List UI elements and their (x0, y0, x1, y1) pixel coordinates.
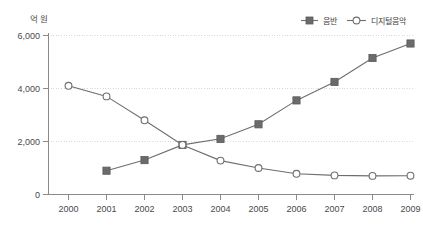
x-tick-label-2003: 2003 (172, 204, 192, 214)
data-point (65, 82, 72, 89)
x-tick-labels: 2000 2001 2002 2003 2004 2005 2006 2007 … (58, 204, 420, 214)
data-point (331, 78, 338, 85)
series-line-digital (69, 86, 411, 176)
x-tick-label-2000: 2000 (58, 204, 78, 214)
x-tick-label-2006: 2006 (286, 204, 306, 214)
legend-marker-filled-square (306, 17, 313, 24)
chart-canvas: 억 원 6,000 4,000 2,000 0 2000 2001 2002 2… (0, 0, 423, 239)
x-tick-label-2002: 2002 (134, 204, 154, 214)
data-point (407, 172, 414, 179)
x-tick-label-2007: 2007 (324, 204, 344, 214)
data-point (141, 157, 148, 164)
data-point (179, 142, 186, 149)
data-point (141, 117, 148, 124)
x-tick-label-2001: 2001 (96, 204, 116, 214)
data-point (293, 97, 300, 104)
data-point (103, 93, 110, 100)
data-point (331, 172, 338, 179)
gridlines (48, 36, 414, 142)
x-tick-marks (69, 195, 411, 200)
legend-item-album[interactable]: 음반 (301, 17, 338, 26)
data-point (293, 170, 300, 177)
series-digital (65, 82, 414, 179)
series-album (103, 40, 414, 174)
data-point (255, 121, 262, 128)
data-point (369, 54, 376, 61)
x-tick-label-2008: 2008 (362, 204, 382, 214)
series-line-album (107, 44, 411, 171)
y-axis-unit-label: 억 원 (30, 14, 48, 24)
data-point (407, 40, 414, 47)
x-tick-label-2009: 2009 (400, 204, 420, 214)
legend-label-digital: 디지털음악 (371, 16, 407, 26)
legend-marker-open-circle (353, 17, 360, 24)
legend-label-album: 음반 (323, 17, 338, 26)
data-point (217, 157, 224, 164)
x-tick-label-2004: 2004 (210, 204, 230, 214)
legend-item-digital[interactable]: 디지털음악 (347, 16, 407, 26)
data-point (103, 167, 110, 174)
y-tick-label-4000: 4,000 (17, 84, 40, 94)
series-layer (65, 40, 414, 179)
line-chart-container: 억 원 6,000 4,000 2,000 0 2000 2001 2002 2… (0, 0, 423, 239)
y-tick-label-0: 0 (35, 190, 40, 200)
y-tick-label-2000: 2,000 (17, 137, 40, 147)
x-tick-label-2005: 2005 (248, 204, 268, 214)
y-tick-labels: 6,000 4,000 2,000 0 (17, 31, 40, 200)
y-tick-marks (43, 36, 48, 195)
y-tick-label-6000: 6,000 (17, 31, 40, 41)
data-point (369, 173, 376, 180)
data-point (217, 135, 224, 142)
chart-legend: 음반 디지털음악 (301, 16, 407, 26)
data-point (255, 165, 262, 172)
